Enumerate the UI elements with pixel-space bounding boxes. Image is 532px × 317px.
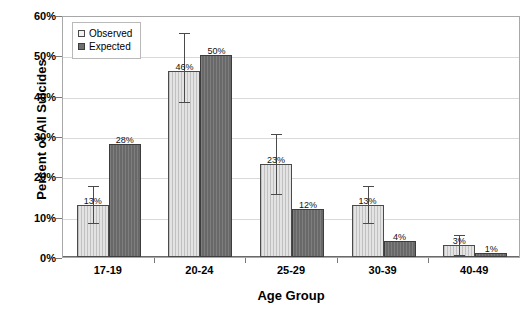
x-tick-label: 25-29 — [277, 264, 305, 276]
value-label-expected: 50% — [207, 46, 225, 56]
gridline — [63, 98, 519, 99]
legend-label: Observed — [89, 28, 132, 40]
bar-expected — [109, 144, 141, 257]
y-tick-mark — [56, 258, 62, 259]
y-tick-mark — [56, 97, 62, 98]
y-tick-label: 10% — [8, 212, 56, 224]
legend-item: Expected — [78, 40, 132, 53]
y-tick-label: 50% — [8, 50, 56, 62]
y-tick-mark — [56, 56, 62, 57]
bar-chart: Percent of All Suicides 13%28%46%50%23%1… — [0, 0, 532, 317]
error-bar-cap-lower — [179, 102, 190, 103]
x-tick-mark — [428, 258, 429, 263]
value-label-observed: 13% — [84, 196, 102, 206]
value-label-expected: 12% — [299, 200, 317, 210]
value-label-expected: 1% — [485, 244, 498, 254]
y-tick-label: 0% — [8, 252, 56, 264]
x-axis-title: Age Group — [62, 288, 520, 303]
value-label-observed: 23% — [267, 155, 285, 165]
error-bar-cap-lower — [454, 255, 465, 256]
x-tick-label: 20-24 — [185, 264, 213, 276]
y-tick-mark — [56, 218, 62, 219]
error-bar-cap-upper — [271, 134, 282, 135]
x-tick-mark — [245, 258, 246, 263]
legend-swatch-expected-icon — [78, 43, 85, 50]
x-tick-label: 30-39 — [369, 264, 397, 276]
y-tick-label: 30% — [8, 131, 56, 143]
x-tick-label: 40-49 — [460, 264, 488, 276]
chart-legend: ObservedExpected — [72, 22, 141, 59]
y-tick-label: 40% — [8, 91, 56, 103]
y-tick-mark — [56, 16, 62, 17]
legend-label: Expected — [89, 41, 131, 53]
y-axis-title: Percent of All Suicides — [34, 15, 49, 245]
value-label-expected: 4% — [393, 232, 406, 242]
legend-item: Observed — [78, 27, 132, 40]
error-bar-cap-upper — [363, 186, 374, 187]
value-label-expected: 28% — [116, 135, 134, 145]
x-tick-mark — [337, 258, 338, 263]
y-tick-mark — [56, 137, 62, 138]
y-tick-label: 60% — [8, 10, 56, 22]
legend-swatch-observed-icon — [78, 30, 85, 37]
y-tick-label: 20% — [8, 171, 56, 183]
value-label-observed: 46% — [175, 62, 193, 72]
value-label-observed: 3% — [453, 236, 466, 246]
bar-expected — [384, 241, 416, 257]
value-label-observed: 13% — [359, 196, 377, 206]
x-tick-mark — [154, 258, 155, 263]
error-bar-cap-lower — [271, 194, 282, 195]
y-tick-mark — [56, 177, 62, 178]
error-bar-cap-lower — [363, 223, 374, 224]
bar-expected — [292, 209, 324, 257]
error-bar-cap-upper — [179, 33, 190, 34]
error-bar-cap-upper — [88, 186, 99, 187]
x-tick-label: 17-19 — [94, 264, 122, 276]
error-bar-cap-lower — [88, 223, 99, 224]
bar-expected — [200, 55, 232, 257]
